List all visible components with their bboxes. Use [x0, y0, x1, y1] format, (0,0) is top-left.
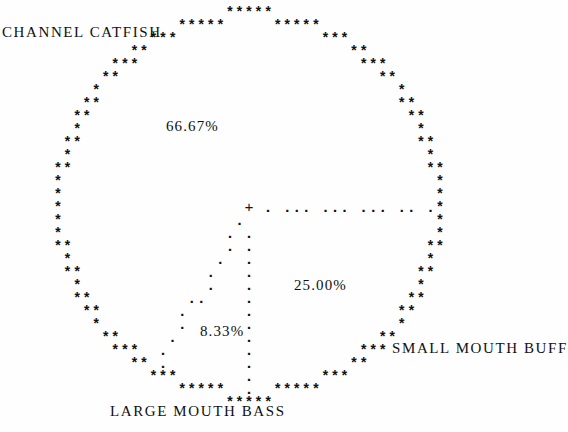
pie-perimeter-star: * [54, 228, 62, 241]
pie-radius-dot: . [244, 254, 253, 267]
pie-radius-dot: . [244, 241, 253, 254]
pie-perimeter-star: * [283, 384, 291, 397]
pie-perimeter-star: * [82, 293, 90, 306]
pie-perimeter-star: * [293, 20, 301, 33]
pie-radius-dot: . [244, 228, 253, 241]
pie-perimeter-star: * [378, 59, 386, 72]
pie-perimeter-star: * [197, 384, 205, 397]
pie-radius-dot: . [178, 319, 187, 332]
pie-perimeter-star: * [130, 358, 138, 371]
pie-radius-dot: . [178, 306, 187, 319]
pie-perimeter-star: * [264, 7, 272, 20]
pie-radius-dot: . [159, 358, 168, 371]
pie-perimeter-star: * [216, 20, 224, 33]
pie-perimeter-star: * [130, 46, 138, 59]
pie-perimeter-star: * [369, 59, 377, 72]
pie-perimeter-star: * [359, 46, 367, 59]
pie-perimeter-star: * [426, 267, 434, 280]
pie-perimeter-star: * [388, 72, 396, 85]
pie-perimeter-star: * [417, 293, 425, 306]
pie-perimeter-star: * [398, 98, 406, 111]
pie-perimeter-star: * [436, 215, 444, 228]
slice-label-channel-catfish: CHANNEL CATFISH [2, 24, 162, 41]
pie-perimeter-star: * [398, 306, 406, 319]
pie-radius-dot: . [359, 202, 368, 215]
pie-perimeter-star: * [92, 319, 100, 332]
pie-perimeter-star: * [436, 176, 444, 189]
pie-perimeter-star: * [187, 20, 195, 33]
pie-radius-dot: . [302, 202, 311, 215]
pie-perimeter-star: * [417, 137, 425, 150]
pie-perimeter-star: * [130, 345, 138, 358]
pie-radius-dot: . [378, 202, 387, 215]
slice-percent-large-mouth-bass: 8.33% [200, 323, 244, 340]
pie-perimeter-star: * [398, 319, 406, 332]
pie-perimeter-star: * [111, 72, 119, 85]
pie-perimeter-star: * [92, 306, 100, 319]
pie-perimeter-star: * [73, 280, 81, 293]
pie-perimeter-star: * [293, 384, 301, 397]
pie-perimeter-star: * [350, 358, 358, 371]
pie-perimeter-star: * [178, 384, 186, 397]
pie-radius-dot: . [206, 267, 215, 280]
pie-perimeter-star: * [340, 33, 348, 46]
pie-perimeter-star: * [426, 137, 434, 150]
pie-perimeter-star: * [417, 124, 425, 137]
pie-perimeter-star: * [73, 111, 81, 124]
slice-percent-small-mouth-buff: 25.00% [294, 277, 347, 294]
pie-perimeter-star: * [178, 20, 186, 33]
pie-perimeter-star: * [378, 72, 386, 85]
pie-perimeter-star: * [54, 215, 62, 228]
pie-radius-dot: . [244, 267, 253, 280]
pie-radius-dot: . [206, 280, 215, 293]
pie-perimeter-star: * [111, 59, 119, 72]
pie-perimeter-star: * [273, 384, 281, 397]
pie-perimeter-star: * [140, 46, 148, 59]
pie-center-mark: + [244, 202, 253, 215]
pie-radius-dot: . [264, 202, 273, 215]
pie-radius-dot: . [292, 202, 301, 215]
pie-radius-dot: . [244, 280, 253, 293]
pie-perimeter-star: * [121, 345, 129, 358]
pie-perimeter-star: * [92, 85, 100, 98]
pie-perimeter-star: * [398, 85, 406, 98]
pie-perimeter-star: * [436, 163, 444, 176]
pie-perimeter-star: * [426, 163, 434, 176]
pie-radius-dot: . [244, 358, 253, 371]
pie-perimeter-star: * [245, 7, 253, 20]
pie-perimeter-star: * [73, 293, 81, 306]
pie-perimeter-star: * [312, 384, 320, 397]
pie-perimeter-star: * [63, 241, 71, 254]
pie-perimeter-star: * [417, 267, 425, 280]
pie-radius-dot: . [321, 202, 330, 215]
pie-perimeter-star: * [331, 33, 339, 46]
slice-label-small-mouth-buff: SMALL MOUTH BUFF [392, 340, 568, 357]
pie-perimeter-star: * [73, 267, 81, 280]
pie-perimeter-star: * [340, 371, 348, 384]
pie-perimeter-star: * [378, 332, 386, 345]
pie-radius-dot: . [340, 202, 349, 215]
pie-perimeter-star: * [73, 124, 81, 137]
pie-perimeter-star: * [82, 306, 90, 319]
pie-radius-dot: . [244, 319, 253, 332]
pie-perimeter-star: * [63, 254, 71, 267]
pie-perimeter-star: * [63, 150, 71, 163]
pie-perimeter-star: * [235, 7, 243, 20]
pie-perimeter-star: * [359, 358, 367, 371]
pie-perimeter-star: * [273, 20, 281, 33]
pie-perimeter-star: * [82, 111, 90, 124]
pie-perimeter-star: * [302, 20, 310, 33]
pie-perimeter-star: * [407, 111, 415, 124]
pie-perimeter-star: * [159, 371, 167, 384]
pie-perimeter-star: * [54, 163, 62, 176]
pie-perimeter-star: * [407, 293, 415, 306]
pie-radius-dot: . [187, 293, 196, 306]
pie-perimeter-star: * [417, 111, 425, 124]
pie-radius-dot: . [426, 202, 435, 215]
pie-radius-dot: . [197, 293, 206, 306]
pie-perimeter-star: * [436, 189, 444, 202]
pie-perimeter-star: * [426, 150, 434, 163]
pie-perimeter-star: * [321, 33, 329, 46]
